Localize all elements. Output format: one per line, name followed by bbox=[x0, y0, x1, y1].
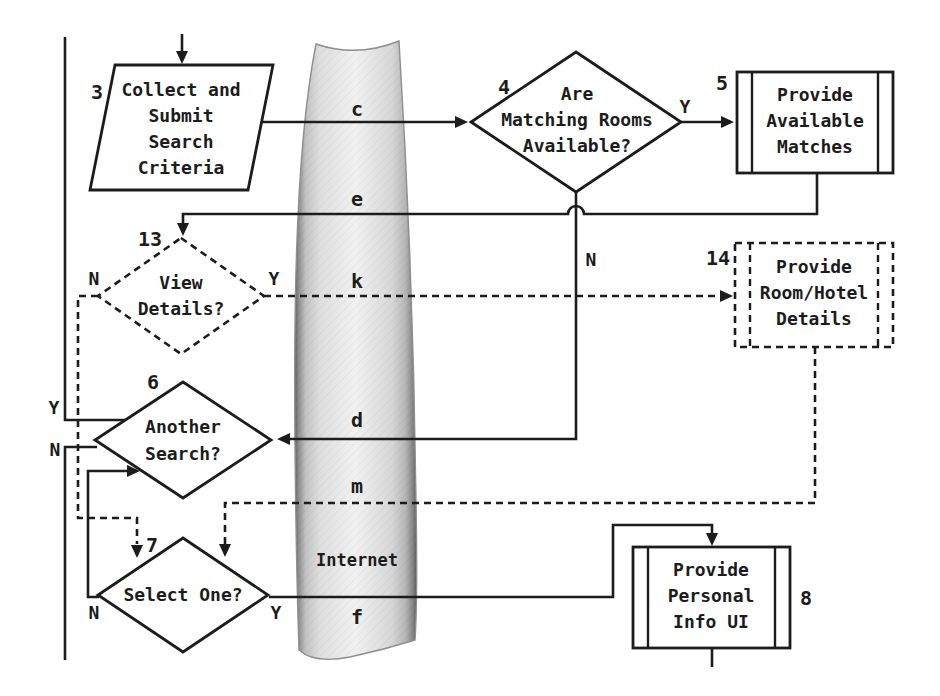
step8-personal-info: 8 Provide Personal Info UI bbox=[633, 547, 812, 648]
edge-e-line bbox=[183, 173, 817, 224]
edge-c-letter: c bbox=[351, 97, 363, 121]
step4-rooms-available: 4 Are Matching Rooms Available? Y N bbox=[471, 52, 691, 270]
step13-label: View bbox=[159, 272, 203, 293]
step14-label: Details bbox=[776, 308, 852, 329]
edge-f-letter: f bbox=[351, 605, 363, 629]
step14-label: Room/Hotel bbox=[760, 282, 868, 303]
step4-label: Matching Rooms bbox=[501, 109, 653, 130]
step13-diamond bbox=[98, 238, 264, 354]
step3-collect-criteria: 3 Collect and Submit Search Criteria bbox=[90, 65, 273, 190]
edge-no-13-arrowhead bbox=[131, 545, 143, 558]
step3-label: Search bbox=[148, 131, 213, 152]
step8-label: Provide bbox=[673, 559, 749, 580]
step13-number: 13 bbox=[138, 227, 162, 251]
step4-yes-label: Y bbox=[680, 96, 691, 117]
edge-d-letter: d bbox=[351, 408, 363, 432]
edge-e-letter: e bbox=[351, 187, 363, 211]
step5-label: Matches bbox=[777, 136, 853, 157]
step4-no-label: N bbox=[586, 249, 597, 270]
step14-room-hotel-details: 14 Provide Room/Hotel Details bbox=[706, 243, 893, 347]
step5-provide-matches: 5 Provide Available Matches bbox=[716, 71, 893, 173]
step13-view-details: 13 View Details? N Y bbox=[89, 227, 280, 354]
step8-number: 8 bbox=[800, 586, 812, 610]
step4-label: Are bbox=[561, 83, 594, 104]
internet-band: Internet bbox=[295, 41, 417, 659]
step6-label: Search? bbox=[145, 443, 221, 464]
step6-another-search: 6 Another Search? Y N bbox=[49, 370, 271, 498]
step7-yes-label: Y bbox=[271, 602, 282, 623]
flowchart-canvas: Internet 3 Collect and Submit Search bbox=[0, 0, 940, 696]
edge-yes-4-arrowhead bbox=[721, 116, 734, 128]
step6-number: 6 bbox=[147, 370, 159, 394]
step4-number: 4 bbox=[498, 75, 510, 99]
step4-label: Available? bbox=[523, 135, 631, 156]
step6-diamond bbox=[95, 382, 271, 498]
rail-left-lower-n-exit bbox=[65, 447, 97, 660]
step6-yes-label: Y bbox=[49, 397, 60, 418]
edge-k-letter: k bbox=[351, 269, 363, 293]
internet-label: Internet bbox=[316, 550, 398, 570]
step8-label: Info UI bbox=[673, 611, 749, 632]
flowchart-page: Internet 3 Collect and Submit Search bbox=[0, 0, 940, 696]
step3-label: Submit bbox=[148, 105, 213, 126]
step7-select-one: 7 Select One? N Y bbox=[89, 533, 282, 652]
step8-label: Personal bbox=[668, 585, 755, 606]
step6-no-label: N bbox=[50, 439, 61, 460]
edge-m-arrowhead bbox=[219, 544, 231, 557]
step7-label: Select One? bbox=[123, 584, 242, 605]
edge-c-arrowhead bbox=[455, 116, 468, 128]
step14-label: Provide bbox=[776, 256, 852, 277]
step7-no-label: N bbox=[89, 602, 100, 623]
edge-k-arrowhead bbox=[720, 290, 733, 302]
step5-label: Provide bbox=[777, 84, 853, 105]
step7-number: 7 bbox=[146, 533, 158, 557]
step6-label: Another bbox=[145, 416, 221, 437]
step14-number: 14 bbox=[706, 246, 730, 270]
edge-e-arrowhead bbox=[177, 223, 189, 236]
step13-label: Details? bbox=[138, 298, 225, 319]
step3-label: Collect and bbox=[121, 79, 240, 100]
step5-number: 5 bbox=[716, 71, 728, 95]
step13-yes-label: Y bbox=[269, 268, 280, 289]
step5-label: Available bbox=[766, 110, 864, 131]
edge-d-arrowhead bbox=[277, 433, 290, 445]
entry-arrowhead-step3 bbox=[176, 51, 188, 64]
edge-f-arrowhead bbox=[706, 533, 718, 546]
step3-number: 3 bbox=[91, 80, 103, 104]
step3-label: Criteria bbox=[138, 157, 225, 178]
step13-no-label: N bbox=[89, 268, 100, 289]
edge-m-letter: m bbox=[351, 474, 363, 498]
